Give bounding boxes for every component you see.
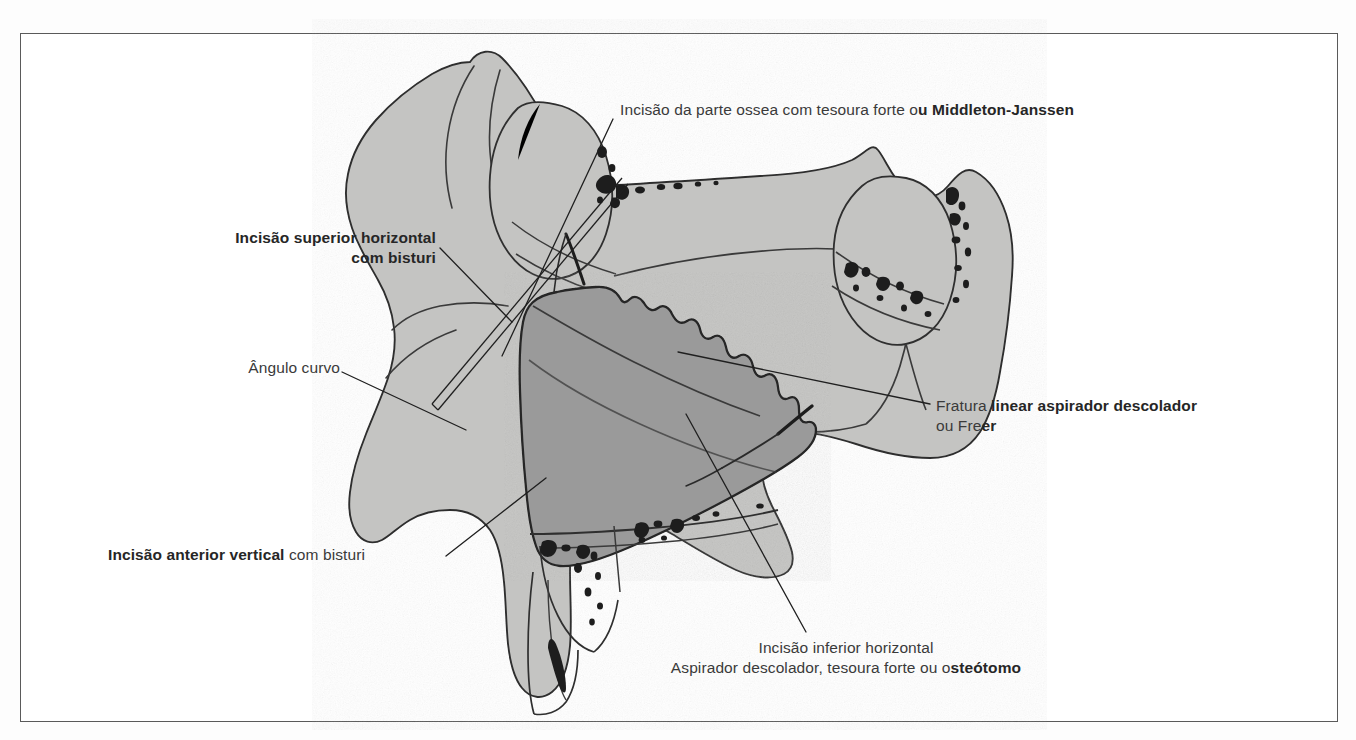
label-fratura-line2-bold: er — [981, 417, 996, 434]
label-inferior-line1: Incisão inferior horizontal — [758, 639, 933, 656]
label-superior-line2: com bisturi — [351, 249, 436, 266]
label-incisao-anterior-vertical: Incisão anterior vertical com bisturi — [108, 545, 460, 565]
label-parte-ossea-bold: u Middleton-Janssen — [918, 101, 1074, 118]
label-angulo-curvo-text: Ângulo curvo — [248, 359, 340, 376]
label-fratura-line1-bold: linear aspirador descolador — [991, 397, 1197, 414]
label-inferior-line2-light: Aspirador descolador, tesoura forte ou o — [671, 659, 951, 676]
label-anterior-vertical-light: com bisturi — [285, 546, 365, 563]
label-incisao-parte-ossea: Incisão da parte ossea com tesoura forte… — [620, 100, 1074, 120]
label-inferior-line2-bold: steótomo — [951, 659, 1022, 676]
label-fratura-line1-light: Fratura — [936, 397, 991, 414]
label-incisao-inferior-horizontal: Incisão inferior horizontal Aspirador de… — [618, 638, 1074, 678]
label-superior-line1: Incisão superior horizontal — [235, 229, 436, 246]
label-incisao-superior-horizontal: Incisão superior horizontal com bisturi — [118, 228, 436, 268]
label-fratura-line2-light: ou Fre — [936, 417, 981, 434]
label-parte-ossea-light: Incisão da parte ossea com tesoura forte… — [620, 101, 918, 118]
label-fratura-linear: Fratura linear aspirador descolador ou F… — [936, 396, 1256, 436]
label-anterior-vertical-bold: Incisão anterior vertical — [108, 546, 285, 563]
label-angulo-curvo: Ângulo curvo — [186, 358, 340, 378]
